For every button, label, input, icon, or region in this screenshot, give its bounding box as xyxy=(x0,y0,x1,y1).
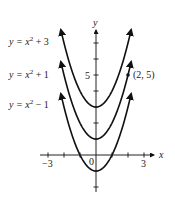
x-tick-label-3: 3 xyxy=(141,158,146,169)
point-marker xyxy=(126,73,130,77)
parabola-curve xyxy=(96,30,131,107)
point-label: (2, 5) xyxy=(133,69,155,81)
parabola-curve xyxy=(61,30,96,107)
parabola-curve xyxy=(61,62,96,139)
parabola-curve xyxy=(96,62,131,139)
x-axis-label: x xyxy=(158,149,164,160)
y-axis-label: y xyxy=(92,17,98,28)
y-tick-label-5: 5 xyxy=(85,70,90,81)
axes xyxy=(40,30,154,192)
parabola-chart: −3 0 3 5 x y (2, 5) y = x2 + 3 y = x2 + … xyxy=(0,0,175,197)
curve-label-x2-plus-1: y = x2 + 1 xyxy=(8,68,49,80)
x-tick-label-neg3: −3 xyxy=(42,158,53,169)
curve-label-x2-minus-1: y = x2 − 1 xyxy=(8,98,49,110)
curve-label-x2-plus-3: y = x2 + 3 xyxy=(8,35,49,47)
x-tick-label-0: 0 xyxy=(89,156,94,167)
